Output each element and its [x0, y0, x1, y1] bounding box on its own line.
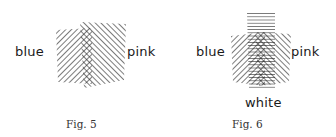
- fig6-label-blue: blue: [196, 45, 225, 58]
- fig5-label-pink: pink: [127, 45, 155, 58]
- fig5-hatch-diagram: [52, 20, 132, 92]
- fig6-label-pink: pink: [291, 45, 319, 58]
- fig6-label-white: white: [245, 96, 282, 109]
- fig6-hatch-diagram: [229, 10, 295, 90]
- fig5-caption: Fig. 5: [66, 119, 97, 130]
- fig5-label-blue: blue: [15, 45, 44, 58]
- fig6-caption: Fig. 6: [232, 119, 263, 130]
